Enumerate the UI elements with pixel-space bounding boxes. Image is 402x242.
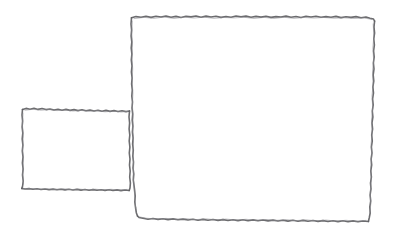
sketch-canvas	[0, 0, 402, 242]
small-panel-rect[interactable]	[22, 108, 131, 190]
large-content-rect[interactable]	[131, 16, 375, 222]
small-rect-right-edge	[129, 111, 130, 191]
wireframe-sketch	[0, 0, 402, 242]
